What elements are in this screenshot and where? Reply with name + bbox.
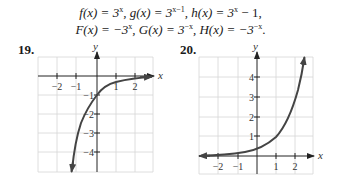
x-axis-label-20: x bbox=[317, 149, 323, 161]
y-axis-label-20: y bbox=[252, 40, 258, 52]
svg-text:−2: −2 bbox=[213, 161, 224, 172]
svg-text:−1: −1 bbox=[83, 90, 94, 101]
graph-19: x y −2 −1 1 2 −1 −2 −3 −4 bbox=[38, 40, 163, 172]
svg-text:2: 2 bbox=[249, 112, 254, 123]
svg-text:3: 3 bbox=[249, 92, 254, 103]
svg-text:−3: −3 bbox=[83, 128, 94, 139]
svg-text:−4: −4 bbox=[83, 147, 94, 158]
svg-text:1: 1 bbox=[249, 131, 254, 142]
graphs-canvas: x y −2 −1 1 2 −1 −2 −3 −4 bbox=[0, 0, 341, 190]
svg-text:1: 1 bbox=[274, 161, 279, 172]
x-axis-label-19: x bbox=[157, 69, 163, 81]
graph-20: x y −2 −1 1 2 1 2 3 4 bbox=[199, 40, 323, 174]
svg-text:4: 4 bbox=[249, 72, 254, 83]
svg-text:2: 2 bbox=[293, 161, 298, 172]
y-axis-label-19: y bbox=[92, 40, 98, 52]
svg-text:2: 2 bbox=[133, 81, 138, 92]
svg-text:−1: −1 bbox=[71, 81, 82, 92]
svg-text:−1: −1 bbox=[233, 161, 244, 172]
svg-text:−2: −2 bbox=[52, 81, 63, 92]
